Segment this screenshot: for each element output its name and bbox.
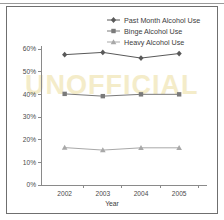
data-point-marker xyxy=(101,94,105,98)
y-tick-label: 10% xyxy=(23,159,36,166)
data-point-marker xyxy=(177,51,182,57)
series-line xyxy=(65,94,179,96)
x-tick-label: 2004 xyxy=(134,190,149,197)
y-tick-label: 30% xyxy=(23,113,36,120)
legend-marker xyxy=(111,17,116,23)
x-tick-label: 2002 xyxy=(57,190,72,197)
data-point-marker xyxy=(100,50,105,56)
x-axis-title: Year xyxy=(105,200,119,207)
chart-legend: Past Month Alcohol UseBinge Alcohol UseH… xyxy=(107,16,200,47)
y-tick-label: 0% xyxy=(26,181,36,188)
data-point-marker xyxy=(139,92,143,96)
chart-series xyxy=(62,50,182,61)
x-tick-label: 2003 xyxy=(95,190,110,197)
legend-item[interactable]: Heavy Alcohol Use xyxy=(107,38,184,47)
line-chart: Past Month Alcohol UseBinge Alcohol UseH… xyxy=(7,7,217,213)
x-tick-label: 2005 xyxy=(172,190,187,197)
series-line xyxy=(65,52,179,58)
legend-item[interactable]: Binge Alcohol Use xyxy=(107,27,182,36)
chart-series xyxy=(62,145,182,152)
legend-label: Past Month Alcohol Use xyxy=(124,16,200,25)
y-tick-label: 40% xyxy=(23,91,36,98)
y-tick-label: 60% xyxy=(23,45,36,52)
figure-border-box: UNOFFICIAL Past Month Alcohol UseBinge A… xyxy=(6,6,218,214)
data-point-marker xyxy=(177,92,181,96)
y-tick-label: 50% xyxy=(23,68,36,75)
chart-series xyxy=(62,92,181,99)
chart-page: UNOFFICIAL Past Month Alcohol UseBinge A… xyxy=(0,0,224,220)
chart-series-group xyxy=(62,50,182,153)
data-point-marker xyxy=(62,92,66,96)
legend-item[interactable]: Past Month Alcohol Use xyxy=(107,16,200,25)
legend-marker xyxy=(111,29,115,33)
legend-label: Heavy Alcohol Use xyxy=(124,38,184,47)
legend-label: Binge Alcohol Use xyxy=(124,27,182,36)
x-axis: 2002200320042005 xyxy=(41,185,207,197)
y-axis: 0%10%20%30%40%50%60% xyxy=(23,45,41,188)
series-line xyxy=(65,148,179,150)
data-point-marker xyxy=(138,55,143,61)
top-divider-rule xyxy=(0,3,224,4)
data-point-marker xyxy=(62,52,67,58)
y-tick-label: 20% xyxy=(23,136,36,143)
